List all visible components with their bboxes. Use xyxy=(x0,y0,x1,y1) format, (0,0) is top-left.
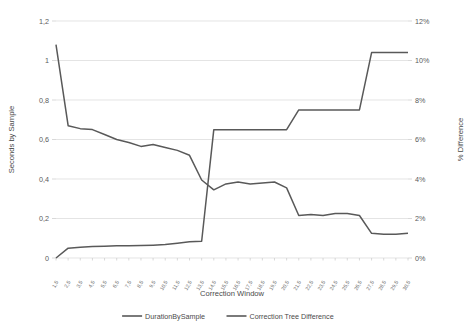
x-axis-tick-label: 11,5 xyxy=(171,279,181,291)
left-axis-tick-label: 1 xyxy=(45,56,49,65)
y2-axis-title: % Difference xyxy=(456,118,465,161)
line-chart: 00%0,22%0,44%0,66%0,88%110%1,212%1,52,53… xyxy=(0,0,476,332)
axis-titles-group: Seconds by Sample% DifferenceCorrection … xyxy=(7,106,465,298)
left-axis-tick-label: 0,4 xyxy=(39,175,49,184)
right-axis-tick-label: 0% xyxy=(415,254,426,263)
series-group xyxy=(56,45,408,258)
x-axis-tick-label: 27,5 xyxy=(365,279,375,291)
x-axis-tick-label: 12,5 xyxy=(183,279,193,291)
x-axis-tick-label: 21,5 xyxy=(292,279,302,291)
x-axis-title: Correction Window xyxy=(200,289,265,298)
x-axis-tick-label: 8,5 xyxy=(136,279,145,288)
x-axis-tick-label: 10,5 xyxy=(158,279,168,291)
x-axis-tick-label: 1,5 xyxy=(51,279,60,288)
x-axis-group: 1,52,53,54,55,56,57,58,59,510,511,512,51… xyxy=(51,258,412,291)
x-axis-tick-label: 4,5 xyxy=(87,279,96,288)
right-axis-tick-label: 8% xyxy=(415,96,426,105)
x-axis-tick-label: 23,5 xyxy=(316,279,326,291)
right-axis-tick-label: 12% xyxy=(415,17,430,26)
right-axis-tick-label: 4% xyxy=(415,175,426,184)
x-axis-tick-label: 7,5 xyxy=(123,279,132,288)
left-axis-tick-label: 0,2 xyxy=(39,214,49,223)
x-axis-tick-label: 5,5 xyxy=(99,279,108,288)
chart-container: 00%0,22%0,44%0,66%0,88%110%1,212%1,52,53… xyxy=(0,0,476,332)
legend-label: DurationBySample xyxy=(145,312,205,321)
series-line-2 xyxy=(56,53,408,258)
right-axis-tick-label: 10% xyxy=(415,56,430,65)
x-axis-tick-label: 19,5 xyxy=(268,279,278,291)
legend-group: DurationBySampleCorrection Tree Differen… xyxy=(122,312,334,321)
x-axis-tick-label: 26,5 xyxy=(353,279,363,291)
right-axis-tick-label: 6% xyxy=(415,135,426,144)
x-axis-tick-label: 6,5 xyxy=(111,279,120,288)
x-axis-tick-label: 24,5 xyxy=(328,279,338,291)
x-axis-tick-label: 3,5 xyxy=(75,279,84,288)
x-axis-tick-label: 30,5 xyxy=(401,279,411,291)
x-axis-tick-label: 25,5 xyxy=(340,279,350,291)
x-axis-tick-label: 28,5 xyxy=(377,279,387,291)
left-axis-tick-label: 0 xyxy=(45,254,49,263)
legend-label: Correction Tree Difference xyxy=(250,312,334,321)
right-axis-tick-label: 2% xyxy=(415,214,426,223)
x-axis-tick-label: 20,5 xyxy=(280,279,290,291)
left-axis-tick-label: 0,6 xyxy=(39,135,49,144)
left-axis-tick-label: 0,8 xyxy=(39,96,49,105)
legend-item[interactable]: Correction Tree Difference xyxy=(227,312,334,321)
legend-item[interactable]: DurationBySample xyxy=(122,312,205,321)
y-axis-title: Seconds by Sample xyxy=(7,106,16,174)
x-axis-tick-label: 9,5 xyxy=(148,279,157,288)
x-axis-tick-label: 22,5 xyxy=(304,279,314,291)
left-axis-tick-label: 1,2 xyxy=(39,17,49,26)
x-axis-tick-label: 2,5 xyxy=(63,279,72,288)
x-axis-tick-label: 29,5 xyxy=(389,279,399,291)
